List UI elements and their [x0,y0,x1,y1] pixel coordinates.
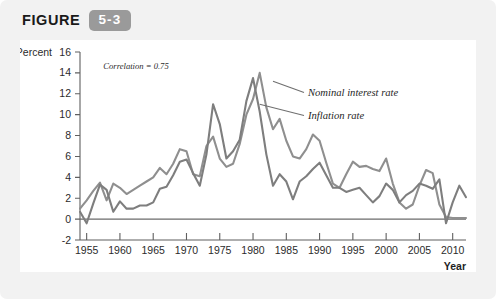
figure-label: FIGURE [22,12,80,28]
y-axis-tick-label: 4 [65,171,71,183]
y-axis-tick-label: 14 [59,66,71,78]
x-axis-tick-label: 1995 [341,244,365,256]
x-axis-tick-label: 1955 [75,244,99,256]
figure-header: FIGURE 5-3 [22,10,131,31]
chart-plot-area: -20246810121416Percent195519601965197019… [20,40,476,272]
x-axis-tick-label: 2000 [374,244,398,256]
y-axis-tick-label: 2 [65,192,71,204]
y-axis-tick-label: 10 [59,108,71,120]
figure-number-badge: 5-3 [89,10,130,31]
series-label-nominal-interest-rate: Nominal interest rate [307,87,399,98]
x-axis-tick-label: 1985 [275,244,299,256]
y-axis-title: Percent [20,46,52,58]
y-axis-tick-label: 12 [59,87,71,99]
x-axis-tick-label: 1970 [175,244,199,256]
x-axis-tick-label: 1980 [241,244,265,256]
series-line-nominal-interest-rate [80,73,466,218]
x-axis-tick-label: 2005 [408,244,432,256]
y-axis-tick-label: 8 [65,129,71,141]
leader-line-nominal-interest-rate [273,81,304,92]
x-axis-title: Year [444,260,466,272]
series-line-inflation-rate [80,78,466,223]
x-axis-tick-label: 1990 [308,244,332,256]
series-label-inflation-rate: Inflation rate [307,110,364,121]
y-axis-tick-label: -2 [62,234,71,246]
line-chart: -20246810121416Percent195519601965197019… [20,40,476,272]
correlation-annotation: Correlation = 0.75 [103,61,169,71]
x-axis-tick-label: 2010 [441,244,465,256]
x-axis-tick-label: 1960 [108,244,132,256]
figure-card: FIGURE 5-3 -20246810121416Percent1955196… [0,0,496,299]
x-axis-tick-label: 1975 [208,244,232,256]
y-axis-tick-label: 0 [65,213,71,225]
y-axis-tick-label: 6 [65,150,71,162]
x-axis-tick-label: 1965 [142,244,166,256]
y-axis-tick-label: 16 [59,46,71,58]
